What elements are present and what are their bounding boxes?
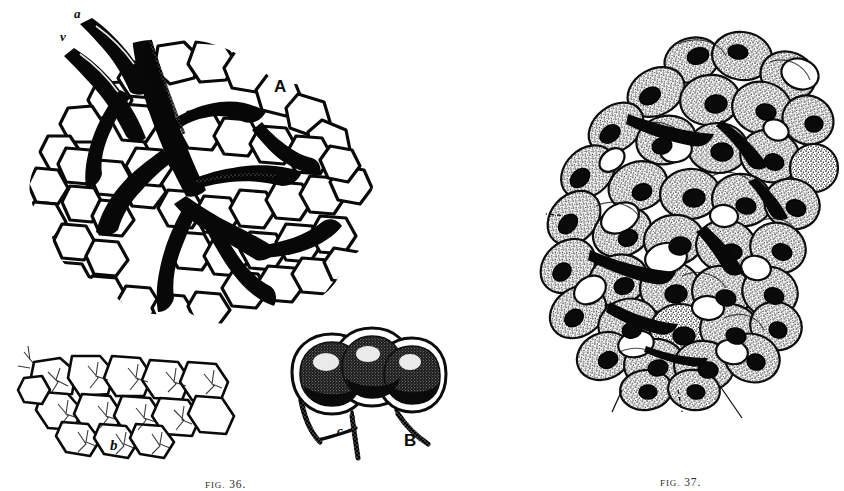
- figure-36-caption: FIG. 36.: [205, 478, 246, 490]
- alveoli-inset-B: [292, 328, 446, 458]
- illustration-plate: a v A b c B: [0, 0, 844, 491]
- figure-37-panel: b c a d: [470, 0, 844, 491]
- figure-36-panel: a v A b c B: [0, 0, 470, 491]
- capillary-network-detail: [18, 356, 234, 458]
- label-artery-a: a: [74, 7, 81, 20]
- figure-36-artwork: [0, 0, 470, 491]
- figure-37-caption: FIG. 37.: [660, 476, 701, 488]
- label-duct-c: c: [337, 424, 343, 437]
- label-panel-a: A: [274, 78, 286, 95]
- figure-37-artwork: [470, 0, 844, 491]
- figure-36-caption-number: 36.: [229, 478, 246, 490]
- figure-37-caption-number: 37.: [684, 476, 701, 488]
- label-capillary-b: b: [110, 438, 118, 453]
- figure-36-caption-prefix: FIG.: [205, 480, 225, 490]
- lobule-alveolar-mesh: [26, 34, 372, 328]
- figure-37-caption-prefix: FIG.: [660, 478, 680, 488]
- label-vein-v: v: [60, 30, 66, 43]
- label-panel-b: B: [404, 432, 416, 449]
